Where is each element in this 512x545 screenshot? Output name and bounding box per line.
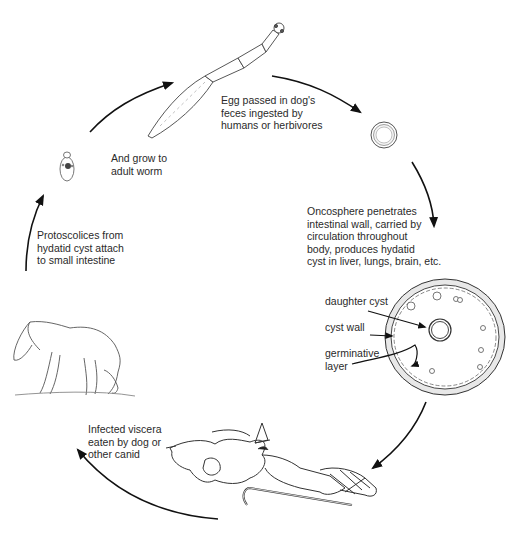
shepherd-and-sheep-illustration: [166, 423, 376, 496]
label-daughter-cyst: daughter cyst: [325, 295, 388, 308]
caption-oncosphere: Oncosphere penetrates intestinal wall, c…: [307, 205, 441, 268]
label-cyst-wall: cyst wall: [325, 321, 365, 334]
caption-egg-ingestion: Egg passed in dog's feces ingested by hu…: [221, 94, 323, 132]
protoscolex-illustration: [60, 152, 74, 181]
caption-adult-worm: And grow to adult worm: [111, 152, 167, 177]
hydatid-cyst-illustration: [385, 279, 505, 395]
caption-infected-viscera: Infected viscera eaten by dog or other c…: [88, 423, 162, 461]
arrow-cyst-to-viscera: [373, 402, 426, 468]
label-germinative-layer: germinative layer: [325, 347, 379, 372]
dog-illustration: [14, 322, 135, 396]
life-cycle-diagram: [0, 0, 512, 545]
caption-protoscolices: Protoscolices from hydatid cyst attach t…: [37, 229, 124, 267]
egg-illustration: [371, 122, 397, 148]
